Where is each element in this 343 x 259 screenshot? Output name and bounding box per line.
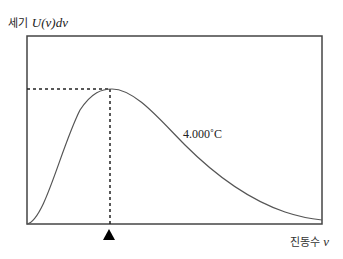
x-label-korean: 진동수 [290,236,320,249]
spectrum-plot [0,0,343,259]
peak-triangle-icon [103,229,115,240]
x-label-math: v [323,234,329,249]
curve-temperature-label: 4.000˚C [183,127,222,142]
spectrum-curve [27,89,322,224]
x-axis-label: 진동수 v [290,233,329,250]
